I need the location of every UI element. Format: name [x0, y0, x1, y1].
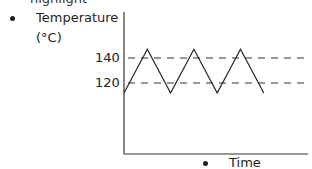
series-line-temperature	[124, 49, 264, 93]
chart-canvas	[0, 0, 312, 169]
